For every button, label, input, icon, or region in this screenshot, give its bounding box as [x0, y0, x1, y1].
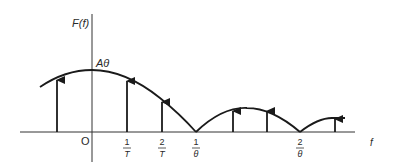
tick-numerator: 2: [297, 137, 302, 147]
tick-numerator: 2: [159, 137, 164, 147]
axes: [20, 14, 355, 162]
tick-2-over-T: 2 T: [158, 137, 166, 159]
x-axis-label: f: [370, 137, 374, 148]
tick-1-over-T: 1 T: [123, 137, 131, 159]
envelope-curve: [40, 70, 345, 132]
tick-numerator: 1: [124, 137, 129, 147]
tick-denominator: θ: [194, 149, 199, 159]
tick-1-over-theta: 1 θ: [192, 137, 200, 159]
impulse-arrows: [57, 80, 335, 132]
tick-denominator: θ: [298, 149, 303, 159]
peak-label: Aθ: [95, 57, 109, 69]
tick-numerator: 1: [193, 137, 198, 147]
second-lobe: [196, 108, 300, 132]
tick-2-over-theta: 2 θ: [296, 137, 304, 159]
third-lobe: [300, 118, 345, 132]
tick-denominator: T: [124, 149, 131, 159]
y-axis-label: F(f): [72, 17, 89, 29]
main-lobe: [40, 70, 196, 132]
tick-denominator: T: [159, 149, 166, 159]
spectrum-diagram: F(f) Aθ O f 1 T 2 T 1 θ 2 θ: [0, 0, 397, 168]
origin-label: O: [81, 135, 90, 147]
